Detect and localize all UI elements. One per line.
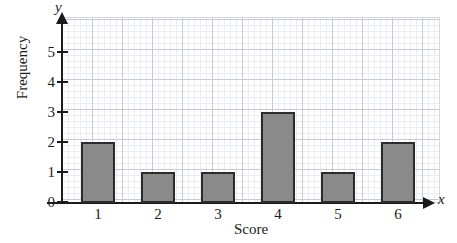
x-axis-title: Score: [62, 222, 440, 237]
x-tick-label-1: 1: [83, 207, 113, 222]
y-tick-label-2: 2: [39, 135, 55, 150]
y-tick-mark-2: [57, 141, 68, 143]
y-tick-mark-3: [57, 111, 68, 113]
x-tick-label-2: 2: [143, 207, 173, 222]
y-tick-mark-4: [57, 81, 68, 83]
x-axis-variable-label: x: [438, 192, 445, 207]
y-tick-label-5: 5: [39, 45, 55, 60]
bar-score-1: [81, 142, 115, 203]
y-tick-label-0: 0: [39, 195, 55, 210]
y-tick-label-1: 1: [39, 165, 55, 180]
bar-score-5: [321, 172, 355, 203]
y-axis-variable-label: y: [55, 0, 62, 15]
y-tick-mark-0: [57, 201, 68, 203]
bar-score-2: [141, 172, 175, 203]
bar-score-3: [201, 172, 235, 203]
x-tick-label-5: 5: [323, 207, 353, 222]
bar-score-4: [261, 112, 295, 203]
bar-chart-figure: y x 0 1 2 3 4 5 1 2 3 4 5 6 Score Freque…: [0, 0, 457, 243]
x-tick-label-4: 4: [263, 207, 293, 222]
y-axis-title: Frequency: [15, 8, 30, 128]
x-tick-label-3: 3: [203, 207, 233, 222]
y-tick-mark-5: [57, 51, 68, 53]
x-axis-arrowhead-icon: [423, 197, 435, 209]
x-tick-label-6: 6: [383, 207, 413, 222]
bar-score-6: [381, 142, 415, 203]
y-tick-mark-1: [57, 171, 68, 173]
y-tick-label-3: 3: [39, 105, 55, 120]
y-tick-label-4: 4: [39, 75, 55, 90]
